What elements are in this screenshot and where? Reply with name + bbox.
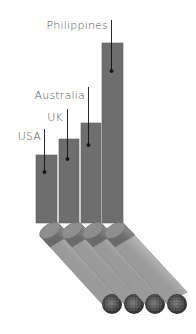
bar-usa bbox=[36, 155, 57, 223]
bar-uk bbox=[59, 139, 79, 223]
label-uk: UK bbox=[47, 111, 63, 124]
label-australia: Australia bbox=[35, 89, 85, 102]
bar-australia bbox=[81, 123, 101, 223]
label-usa: USA bbox=[18, 130, 42, 143]
bar-chart: USA UK Australia Philippines bbox=[0, 0, 196, 334]
label-philippines: Philippines bbox=[47, 19, 108, 32]
cigarettes-illustration bbox=[37, 219, 187, 314]
